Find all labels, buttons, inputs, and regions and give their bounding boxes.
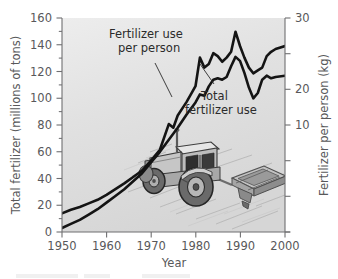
left-tick-label-100: 100 xyxy=(30,91,52,105)
x-tick-label-1960: 1960 xyxy=(92,239,121,253)
annotation-per-person-line2: per person xyxy=(118,41,180,55)
left-tick-label-80: 80 xyxy=(37,118,52,132)
x-tick-label-1980: 1980 xyxy=(181,239,210,253)
right-tick-label-10: 10 xyxy=(295,118,310,132)
annotation-total-line1: Total xyxy=(200,89,228,103)
left-tick-label-40: 40 xyxy=(37,172,52,186)
left-tick-label-0: 0 xyxy=(45,225,52,239)
left-axis-major-ticks xyxy=(57,18,63,232)
left-tick-label-20: 20 xyxy=(37,198,52,212)
left-tick-label-120: 120 xyxy=(30,65,52,79)
y-axis-title: Total fertilizer (millions of tons) xyxy=(9,36,23,215)
annotation-per-person-line1: Fertilizer use xyxy=(109,27,183,41)
x-tick-label-1950: 1950 xyxy=(47,239,76,253)
x-tick-label-2000: 2000 xyxy=(270,239,299,253)
x-tick-label-1970: 1970 xyxy=(137,239,166,253)
fertilizer-use-chart-figure: 0 20 40 60 80 100 120 140 160 10 20 30 1… xyxy=(0,0,338,279)
right-tick-label-20: 20 xyxy=(295,82,310,96)
right-axis-ticks xyxy=(285,18,291,232)
x-tick-label-1990: 1990 xyxy=(226,239,255,253)
left-tick-label-160: 160 xyxy=(30,11,52,25)
y2-axis-title: Fertilizer per person (kg) xyxy=(317,54,331,196)
annotation-total-line2: fertilizer use xyxy=(185,103,257,117)
left-tick-label-140: 140 xyxy=(30,38,52,52)
x-axis-title: Year xyxy=(161,256,187,270)
clipped-caption-remnant xyxy=(16,274,190,278)
bottom-axis-ticks xyxy=(62,232,285,238)
right-tick-label-30: 30 xyxy=(295,11,310,25)
chart-canvas: 0 20 40 60 80 100 120 140 160 10 20 30 1… xyxy=(0,0,338,279)
left-tick-label-60: 60 xyxy=(37,145,52,159)
